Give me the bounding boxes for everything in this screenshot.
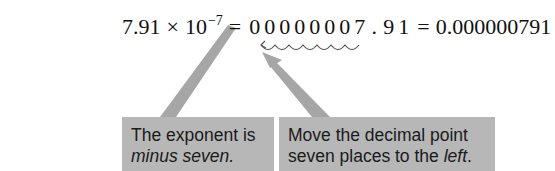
digit: 0 <box>322 14 337 40</box>
digit: 9 <box>381 14 396 40</box>
decimal-pointer-arrow <box>270 62 330 117</box>
scientific-notation-equation: 7.91 × 10 −7 = 0 0 0 0 0 0 0 7 . 9 1 = 0… <box>122 14 551 44</box>
exponent-callout-line-1: The exponent is <box>131 125 265 146</box>
equals-sign-1: = <box>229 14 241 40</box>
exponent-callout-emphasis: minus seven. <box>131 146 234 166</box>
digit: 0 <box>262 14 277 40</box>
exponent: −7 <box>208 13 223 29</box>
decimal-hops-curve <box>261 45 359 50</box>
decimal-callout-line-1: Move the decimal point <box>288 125 486 146</box>
digit: 0 <box>292 14 307 40</box>
decimal-callout-line-2: seven places to the left. <box>288 146 486 167</box>
mantissa: 7.91 <box>122 14 161 40</box>
digit: 7 <box>352 14 367 40</box>
times-sign: × <box>167 14 179 40</box>
digit: 0 <box>277 14 292 40</box>
decimal-callout-emphasis: left <box>444 146 467 166</box>
digit: 1 <box>396 14 411 40</box>
base: 10 <box>185 14 207 40</box>
decimal-point: . <box>367 14 381 40</box>
digit: 0 <box>307 14 322 40</box>
decimal-callout: Move the decimal point seven places to t… <box>279 117 495 171</box>
decimal-result: 0.000000791 <box>436 14 552 40</box>
digit: 0 <box>337 14 352 40</box>
exponent-callout: The exponent is minus seven. <box>122 117 274 171</box>
digit: 0 <box>247 14 262 40</box>
equals-sign-2: = <box>417 14 429 40</box>
